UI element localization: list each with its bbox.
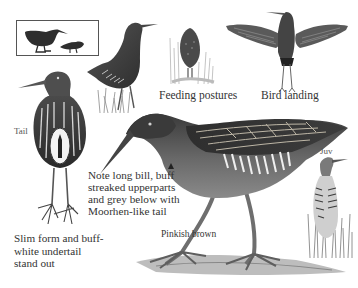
slim-form-caption: Slim form and buff-white undertail stand… — [14, 232, 104, 270]
bird-landing-illustration — [224, 4, 350, 92]
feeding-postures-label: Feeding postures — [159, 89, 237, 101]
note-caption: Note long bill, buff streaked upperparts… — [88, 169, 180, 217]
standing-bird-illustration — [82, 18, 162, 116]
tail-view-illustration — [14, 68, 94, 230]
juvenile-bird-illustration — [306, 154, 356, 260]
feeding-posture-illustration — [168, 18, 216, 88]
juvenile-label: Juv — [320, 147, 333, 156]
field-guide-plate: Feeding postures Bird landing Tail Note … — [0, 0, 358, 288]
pinkish-brown-label: Pinkish brown — [161, 230, 216, 240]
bird-landing-label: Bird landing — [261, 89, 319, 101]
tail-label: Tail — [14, 127, 28, 136]
